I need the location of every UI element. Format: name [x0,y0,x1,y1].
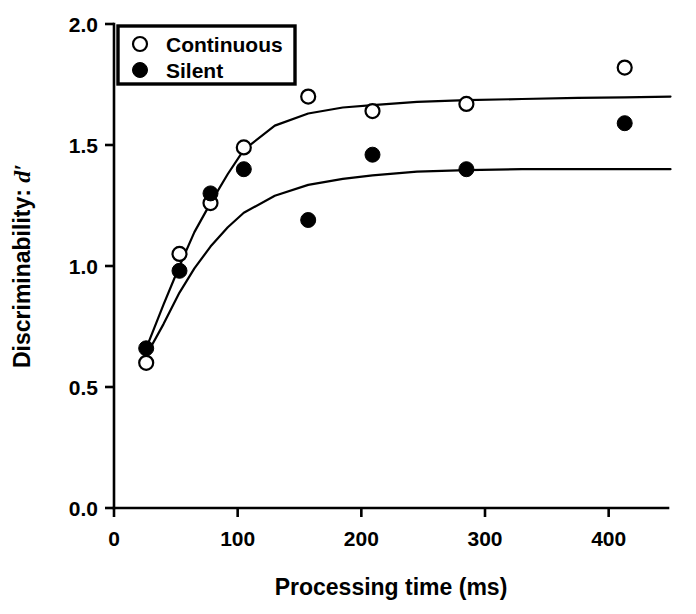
x-axis-ticks [114,508,609,517]
x-tick-label: 100 [220,527,255,550]
data-point-continuous [173,247,187,261]
data-point-silent [203,186,218,201]
data-point-continuous [459,97,473,111]
data-point-continuous [237,140,251,154]
data-point-continuous [139,356,153,370]
x-tick-label: 200 [344,527,379,550]
data-point-silent [139,341,154,356]
x-tick-label: 0 [108,527,120,550]
legend-label-continuous: Continuous [166,33,283,56]
fit-curve-silent [146,169,670,355]
x-axis-title: Processing time (ms) [275,574,508,600]
y-axis-title-group: Discriminability: d′ [9,164,35,368]
data-point-continuous [618,61,632,75]
data-point-silent [172,263,187,278]
y-tick-label: 1.5 [69,134,99,157]
chart-figure: 0.00.51.01.52.0 0100200300400 Processing… [0,0,696,614]
x-tick-label: 300 [467,527,502,550]
legend-marker-silent-icon [133,63,148,78]
data-point-continuous [301,90,315,104]
y-tick-label: 2.0 [69,13,98,36]
data-point-silent [617,116,632,131]
y-tick-label: 0.0 [69,497,98,520]
data-point-silent [459,162,474,177]
y-axis-title-prefix: Discriminability: [9,183,35,368]
legend: Continuous Silent [118,26,295,84]
y-axis-title: Discriminability: d′ [9,164,35,368]
x-axis-tick-labels: 0100200300400 [108,527,626,550]
data-point-silent [365,147,380,162]
x-tick-label: 400 [591,527,626,550]
discriminability-scatter-plot: 0.00.51.01.52.0 0100200300400 Processing… [0,0,696,614]
y-tick-label: 1.0 [69,255,98,278]
y-axis-ticks [105,24,114,508]
data-points [139,61,633,370]
data-point-continuous [366,104,380,118]
y-axis-tick-labels: 0.00.51.01.52.0 [69,13,99,520]
y-axis-title-symbol: d′ [9,164,35,183]
fit-curve-continuous [146,97,670,349]
data-point-silent [301,213,316,228]
legend-marker-continuous-icon [133,37,147,51]
fit-curves [146,97,670,356]
legend-label-silent: Silent [166,59,223,82]
y-tick-label: 0.5 [69,376,99,399]
data-point-silent [236,162,251,177]
